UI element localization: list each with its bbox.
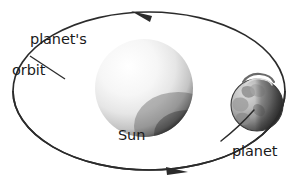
label-sun: Sun	[118, 128, 145, 144]
label-planets-orbit: planet's orbit	[12, 16, 87, 110]
label-orbit-line2: orbit	[12, 63, 87, 79]
label-planet: planet	[232, 144, 277, 160]
planet-body	[231, 74, 283, 131]
sun-body	[95, 39, 222, 160]
diagram-canvas: planet's orbit Sun planet	[0, 0, 300, 182]
label-orbit-line1: planet's	[30, 31, 87, 47]
